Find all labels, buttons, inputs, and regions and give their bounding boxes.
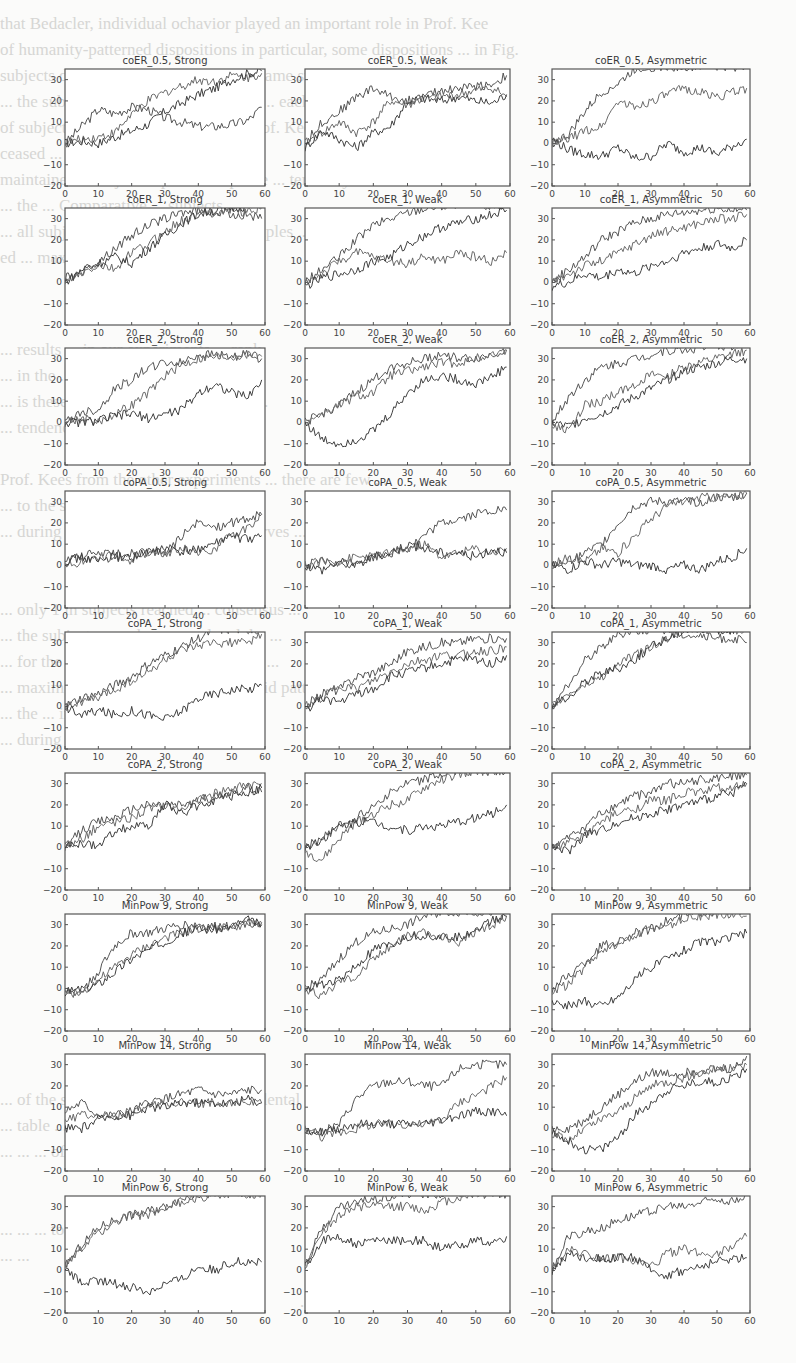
y-tick-label: −10: [283, 299, 302, 309]
y-tick-label: −20: [530, 320, 549, 330]
y-tick-label: 20: [538, 941, 550, 951]
line-plot: 01020304050603020100−10−20: [25, 192, 285, 345]
y-tick-label: 20: [51, 659, 63, 669]
plot-title: MinPow 9, Weak: [367, 900, 448, 911]
plot-title: coER_0.5, Strong: [122, 55, 207, 66]
y-tick-label: 30: [538, 354, 550, 364]
y-tick-label: 10: [291, 117, 303, 127]
y-tick-label: 10: [51, 117, 63, 127]
y-tick-label: 0: [56, 1123, 62, 1133]
y-tick-label: −20: [530, 1026, 549, 1036]
plot-title: MinPow 9, Strong: [122, 900, 209, 911]
plot-panel: 01020304050603020100−10−20coPA_2, Asymme…: [512, 757, 770, 910]
y-tick-label: 0: [296, 138, 302, 148]
line-plot: 01020304050603020100−10−20: [25, 1180, 285, 1333]
plot-frame: [552, 914, 750, 1031]
y-tick-label: 30: [291, 638, 303, 648]
line-plot: 01020304050603020100−10−20: [512, 1038, 770, 1191]
y-tick-label: 0: [543, 842, 549, 852]
plot-panel: 01020304050603020100−10−20coPA_0.5, Weak: [265, 475, 530, 628]
y-tick-label: −10: [43, 160, 62, 170]
line-plot: 01020304050603020100−10−20: [265, 475, 530, 628]
y-tick-label: 20: [538, 659, 550, 669]
plot-title: MinPow 14, Weak: [364, 1040, 451, 1051]
plot-panel: 01020304050603020100−10−20coER_2, Weak: [265, 332, 530, 485]
y-tick-label: 10: [538, 539, 550, 549]
y-tick-label: 10: [538, 821, 550, 831]
y-tick-label: 0: [296, 560, 302, 570]
x-tick-label: 30: [402, 1316, 414, 1326]
plot-panel: 01020304050603020100−10−20coER_0.5, Weak: [265, 53, 530, 206]
y-tick-label: 10: [538, 256, 550, 266]
plot-title: MinPow 14, Asymmetric: [591, 1040, 711, 1051]
y-tick-label: 20: [291, 1223, 303, 1233]
plot-title: MinPow 14, Strong: [119, 1040, 212, 1051]
plot-title: MinPow 6, Strong: [122, 1182, 209, 1193]
plot-panel: 01020304050603020100−10−20coPA_1, Asymme…: [512, 616, 770, 769]
plot-title: coPA_2, Strong: [128, 759, 203, 770]
line-plot: 01020304050603020100−10−20: [265, 757, 530, 910]
y-tick-label: 20: [291, 96, 303, 106]
y-tick-label: 0: [543, 560, 549, 570]
y-tick-label: 10: [538, 680, 550, 690]
y-tick-label: −20: [43, 320, 62, 330]
y-tick-label: −10: [530, 723, 549, 733]
y-tick-label: 20: [538, 800, 550, 810]
plot-title: MinPow 6, Asymmetric: [594, 1182, 708, 1193]
x-tick-label: 30: [159, 1316, 171, 1326]
y-tick-label: −20: [283, 1026, 302, 1036]
y-tick-label: −20: [43, 885, 62, 895]
y-tick-label: 30: [538, 75, 550, 85]
y-tick-label: 0: [543, 1265, 549, 1275]
plot-title: coER_0.5, Asymmetric: [595, 55, 707, 66]
plot-panel: 01020304050603020100−10−20coPA_2, Strong: [25, 757, 285, 910]
line-plot: 01020304050603020100−10−20: [265, 898, 530, 1051]
y-tick-label: −20: [283, 1166, 302, 1176]
y-tick-label: −10: [283, 1145, 302, 1155]
y-tick-label: 20: [538, 518, 550, 528]
y-tick-label: −20: [43, 1166, 62, 1176]
y-tick-label: 10: [291, 396, 303, 406]
line-plot: 01020304050603020100−10−20: [512, 192, 770, 345]
plot-title: coER_1, Weak: [373, 194, 443, 205]
plot-panel: 01020304050603020100−10−20coER_0.5, Asym…: [512, 53, 770, 206]
line-plot: 01020304050603020100−10−20: [25, 898, 285, 1051]
x-tick-label: 30: [645, 1316, 657, 1326]
y-tick-label: −20: [530, 1308, 549, 1318]
y-tick-label: 20: [51, 518, 63, 528]
plot-title: coPA_1, Asymmetric: [600, 618, 701, 629]
y-tick-label: 10: [51, 539, 63, 549]
x-tick-label: 50: [470, 1316, 482, 1326]
y-tick-label: −10: [43, 723, 62, 733]
y-tick-label: −20: [283, 1308, 302, 1318]
x-tick-label: 40: [436, 1316, 448, 1326]
line-plot: 01020304050603020100−10−20: [265, 1038, 530, 1191]
plot-panel: 01020304050603020100−10−20coER_1, Weak: [265, 192, 530, 345]
plot-frame: [305, 1196, 510, 1313]
plot-panel: 01020304050603020100−10−20coER_2, Asymme…: [512, 332, 770, 485]
plot-frame: [65, 1196, 265, 1313]
y-tick-label: −10: [283, 1287, 302, 1297]
y-tick-label: −10: [43, 1287, 62, 1297]
line-plot: 01020304050603020100−10−20: [512, 53, 770, 206]
y-tick-label: 0: [543, 138, 549, 148]
plot-title: coPA_2, Asymmetric: [600, 759, 701, 770]
y-tick-label: 0: [56, 138, 62, 148]
y-tick-label: 20: [291, 235, 303, 245]
y-tick-label: −10: [283, 582, 302, 592]
y-tick-label: 0: [296, 277, 302, 287]
y-tick-label: 0: [56, 983, 62, 993]
plot-panel: 01020304050603020100−10−20coPA_2, Weak: [265, 757, 530, 910]
y-tick-label: 30: [538, 779, 550, 789]
y-tick-label: −10: [43, 1145, 62, 1155]
y-tick-label: 0: [543, 983, 549, 993]
x-tick-label: 20: [126, 1316, 138, 1326]
plot-frame: [65, 69, 265, 186]
y-tick-label: 30: [538, 1202, 550, 1212]
y-tick-label: −10: [530, 299, 549, 309]
y-tick-label: 20: [291, 800, 303, 810]
y-tick-label: 20: [51, 800, 63, 810]
x-tick-label: 20: [612, 1316, 624, 1326]
y-tick-label: 30: [51, 354, 63, 364]
line-plot: 01020304050603020100−10−20: [265, 332, 530, 485]
